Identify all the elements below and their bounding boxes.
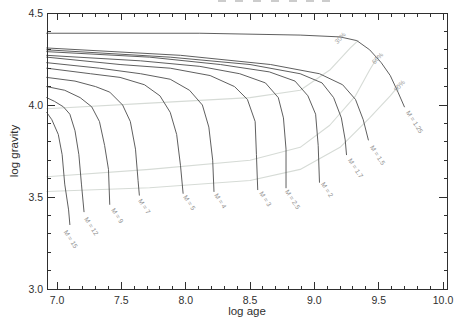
chart-canvas: M = 15M = 12M = 9M = 7M = 5M = 4M = 3M =… <box>0 0 465 330</box>
track-m-15 <box>47 112 70 224</box>
track-m-5 <box>47 68 183 193</box>
fraction-line-60 <box>47 57 378 177</box>
tracks-group <box>47 33 405 224</box>
track-m-1-7 <box>47 50 347 155</box>
y-tick-label: 3.5 <box>28 191 43 203</box>
x-axis-title: log age <box>228 304 266 318</box>
track-label-m-12: M = 12 <box>83 216 100 237</box>
track-label-m-3: M = 3 <box>258 190 273 208</box>
track-m-3 <box>47 57 258 189</box>
track-m-1-25 <box>47 33 405 107</box>
track-m-12 <box>47 98 84 212</box>
y-tick-label: 3.0 <box>28 283 43 295</box>
stellar-tracks-figure: M = 15M = 12M = 9M = 7M = 5M = 4M = 3M =… <box>0 0 465 330</box>
y-axis-title: log gravity <box>7 101 21 201</box>
x-tick-label: 8.0 <box>178 294 193 306</box>
x-tick-label: 9.0 <box>307 294 322 306</box>
track-label-m-7: M = 7 <box>137 197 152 215</box>
x-tick-label: 10.0 <box>433 294 454 306</box>
track-m-9 <box>47 87 110 205</box>
y-tick-label: 4.5 <box>28 7 43 19</box>
track-label-m-1-25: M = 1.25 <box>405 109 425 134</box>
fraction-lines-group <box>47 41 398 192</box>
track-m-7 <box>47 77 140 195</box>
track-label-m-15: M = 15 <box>63 229 80 250</box>
track-label-m-1-5: M = 1.5 <box>369 144 387 166</box>
tick-labels-group: 7.07.58.08.59.09.510.03.03.54.04.5 <box>28 7 453 306</box>
x-tick-label: 9.5 <box>371 294 386 306</box>
track-label-m-2-5: M = 2.5 <box>284 188 302 210</box>
track-label-m-2: M = 2 <box>320 181 335 199</box>
x-tick-label: 7.0 <box>50 294 65 306</box>
track-label-m-5: M = 5 <box>182 194 197 212</box>
axis-ticks-group <box>47 13 447 289</box>
y-tick-label: 4.0 <box>28 99 43 111</box>
x-tick-label: 7.5 <box>114 294 129 306</box>
fraction-label-90: 90% <box>392 78 406 93</box>
curve-labels-group: M = 15M = 12M = 9M = 7M = 5M = 4M = 3M =… <box>63 30 425 249</box>
track-label-m-1-7: M = 1.7 <box>347 157 365 179</box>
track-m-2 <box>47 52 320 183</box>
plot-frame <box>47 13 447 289</box>
track-label-m-9: M = 9 <box>110 207 125 225</box>
track-m-4 <box>47 63 214 192</box>
track-label-m-4: M = 4 <box>213 192 228 210</box>
